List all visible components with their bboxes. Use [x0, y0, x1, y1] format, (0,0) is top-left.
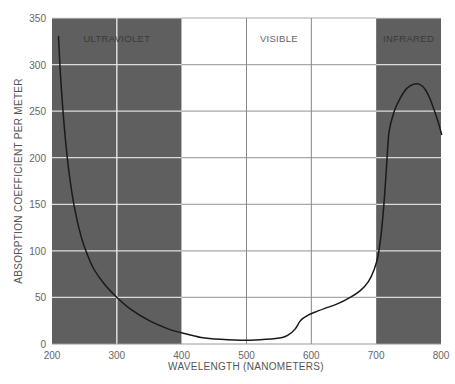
region-label-ultraviolet: ULTRAVIOLET	[83, 33, 150, 44]
x-tick-label: 200	[44, 350, 61, 361]
y-tick-label: 150	[29, 199, 46, 210]
x-axis-label: WAVELENGTH (NANOMETERS)	[168, 361, 324, 372]
region-label-visible: VISIBLE	[260, 33, 298, 44]
absorption-chart: ULTRAVIOLETVISIBLEINFRARED 0501001502002…	[0, 0, 455, 384]
y-tick-label: 350	[29, 13, 46, 24]
x-tick-label: 300	[108, 350, 125, 361]
region-label-infrared: INFRARED	[383, 33, 434, 44]
x-tick-label: 500	[238, 350, 255, 361]
y-tick-label: 0	[40, 339, 46, 350]
x-tick-label: 800	[433, 350, 450, 361]
y-tick-label: 250	[29, 106, 46, 117]
x-tick-label: 400	[173, 350, 190, 361]
y-tick-label: 100	[29, 246, 46, 257]
x-tick-label: 700	[368, 350, 385, 361]
y-axis-label: ABSORPTION COEFFICIENT PER METER	[13, 78, 24, 284]
x-tick-label: 600	[303, 350, 320, 361]
x-axis: 200300400500600700800	[44, 350, 450, 361]
y-tick-label: 300	[29, 60, 46, 71]
y-tick-label: 200	[29, 153, 46, 164]
y-axis: 050100150200250300350	[29, 13, 46, 350]
region-band-visible	[182, 18, 377, 344]
y-tick-label: 50	[35, 292, 47, 303]
